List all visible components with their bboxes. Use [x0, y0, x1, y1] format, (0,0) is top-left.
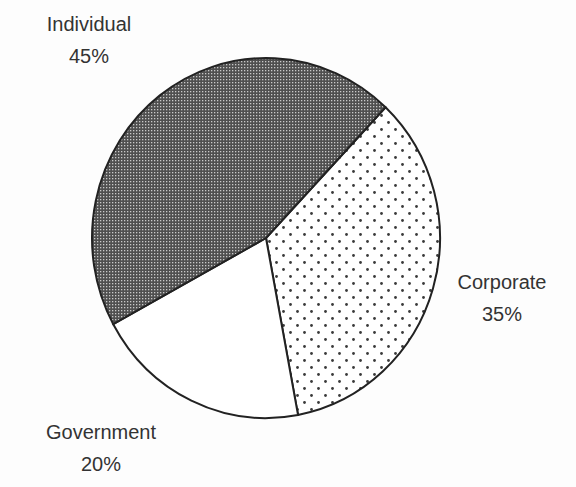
label-corporate: Corporate 35% [441, 266, 563, 330]
label-individual-name: Individual [29, 8, 149, 40]
label-government: Government 20% [26, 416, 176, 480]
label-corporate-name: Corporate [441, 266, 563, 298]
pie-chart [0, 0, 576, 487]
label-individual: Individual 45% [29, 8, 149, 72]
label-individual-pct: 45% [29, 40, 149, 72]
label-government-pct: 20% [26, 448, 176, 480]
label-government-name: Government [26, 416, 176, 448]
label-corporate-pct: 35% [441, 298, 563, 330]
pie-slices [92, 58, 440, 418]
